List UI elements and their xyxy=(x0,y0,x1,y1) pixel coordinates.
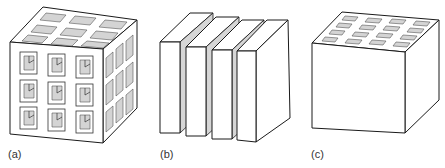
panel-b-parallel-slabs: (b) xyxy=(160,13,290,160)
panel-label-b: (b) xyxy=(160,148,173,160)
panel-label-a: (a) xyxy=(8,148,21,160)
cube-a-front-holes xyxy=(20,52,93,133)
panel-a-perforated-cube: (a) xyxy=(8,7,137,160)
cube-c-front-face xyxy=(312,43,405,133)
panel-c-channelled-cube: (c) xyxy=(311,12,439,160)
panel-label-c: (c) xyxy=(311,148,324,160)
figure: (a) (b) xyxy=(0,0,445,168)
